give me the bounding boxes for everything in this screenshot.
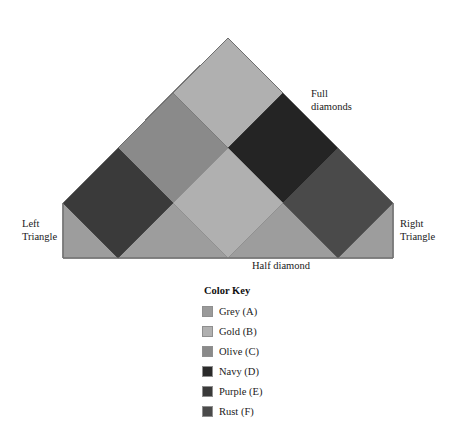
- diagram-tiling: [63, 38, 393, 258]
- legend-swatch-rust: [202, 406, 213, 417]
- legend-item-olive: Olive (C): [199, 342, 339, 360]
- legend-item-navy: Navy (D): [199, 362, 339, 380]
- color-key-legend: Color Key Grey (A) Gold (B) Olive (C) Na…: [199, 285, 339, 422]
- legend-title: Color Key: [204, 285, 339, 296]
- legend-label-navy: Navy (D): [219, 366, 259, 377]
- diagram-canvas: [0, 0, 454, 290]
- legend-swatch-olive: [202, 346, 213, 357]
- label-right-triangle: Right Triangle: [400, 217, 435, 243]
- quilt-block-diagram: Left Triangle Right Triangle Full diamon…: [0, 0, 454, 290]
- label-left-triangle: Left Triangle: [22, 217, 57, 243]
- legend-label-gold: Gold (B): [219, 326, 257, 337]
- label-half-diamond: Half diamond: [252, 259, 310, 272]
- legend-label-rust: Rust (F): [219, 406, 254, 417]
- legend-swatch-navy: [202, 366, 213, 377]
- legend-label-purple: Purple (E): [219, 386, 262, 397]
- legend-label-olive: Olive (C): [219, 346, 259, 357]
- legend-item-gold: Gold (B): [199, 322, 339, 340]
- legend-item-purple: Purple (E): [199, 382, 339, 400]
- legend-swatch-gold: [202, 326, 213, 337]
- legend-swatch-purple: [202, 386, 213, 397]
- legend-item-grey: Grey (A): [199, 302, 339, 320]
- legend-label-grey: Grey (A): [219, 306, 257, 317]
- label-full-diamonds: Full diamonds: [311, 87, 352, 113]
- legend-swatch-grey: [202, 306, 213, 317]
- legend-item-rust: Rust (F): [199, 402, 339, 420]
